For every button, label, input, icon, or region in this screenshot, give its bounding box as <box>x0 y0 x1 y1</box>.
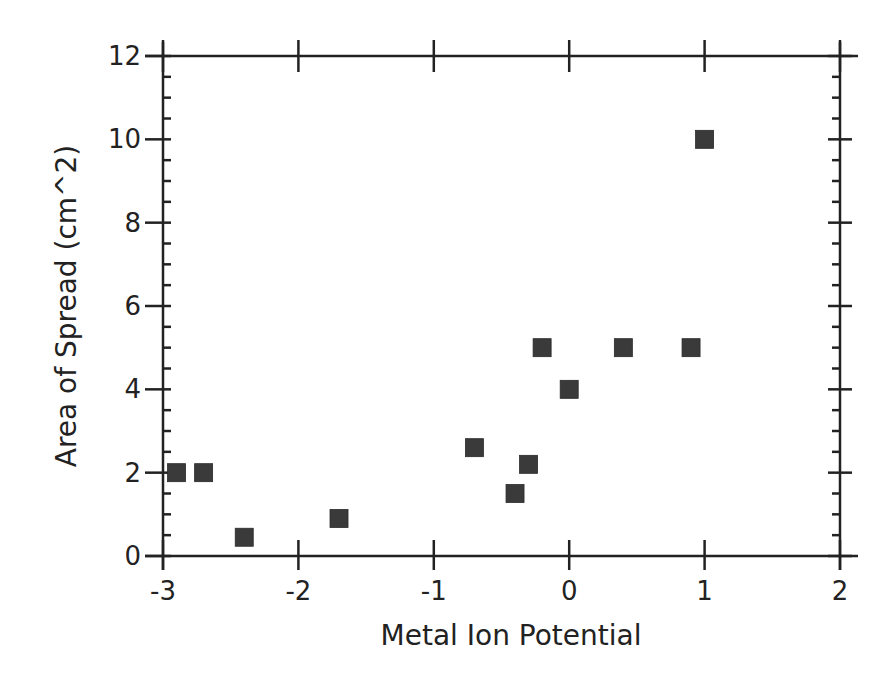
x-tick-label: -3 <box>150 576 176 606</box>
x-tick-label: 1 <box>696 576 713 606</box>
x-tick-label: -2 <box>285 576 311 606</box>
data-point-square <box>682 339 700 357</box>
x-axis-title: Metal Ion Potential <box>381 619 642 652</box>
y-tick-label: 10 <box>108 124 141 154</box>
y-tick-label: 6 <box>124 291 141 321</box>
plot-frame <box>145 42 858 570</box>
data-point-square <box>506 485 524 503</box>
data-point-square <box>560 380 578 398</box>
axis-ticks <box>145 40 852 570</box>
y-axis-title: Area of Spread (cm^2) <box>50 145 83 468</box>
data-point-square <box>614 339 632 357</box>
data-point-square <box>330 510 348 528</box>
y-tick-label: 0 <box>124 541 141 571</box>
y-tick-label: 12 <box>108 41 141 71</box>
y-tick-labels: 024681012 <box>108 41 141 571</box>
data-point-square <box>195 464 213 482</box>
data-point-square <box>533 339 551 357</box>
y-tick-label: 4 <box>124 374 141 404</box>
data-point-square <box>168 464 186 482</box>
y-tick-label: 8 <box>124 208 141 238</box>
data-point-square <box>696 130 714 148</box>
y-tick-label: 2 <box>124 458 141 488</box>
data-points <box>168 130 714 546</box>
data-point-square <box>520 455 538 473</box>
x-tick-labels: -3-2-1012 <box>150 576 848 606</box>
x-tick-label: 2 <box>832 576 849 606</box>
data-point-square <box>235 528 253 546</box>
x-tick-label: -1 <box>421 576 447 606</box>
scatter-chart: -3-2-1012 024681012 Metal Ion Potential … <box>0 0 895 682</box>
x-tick-label: 0 <box>561 576 578 606</box>
data-point-square <box>465 439 483 457</box>
